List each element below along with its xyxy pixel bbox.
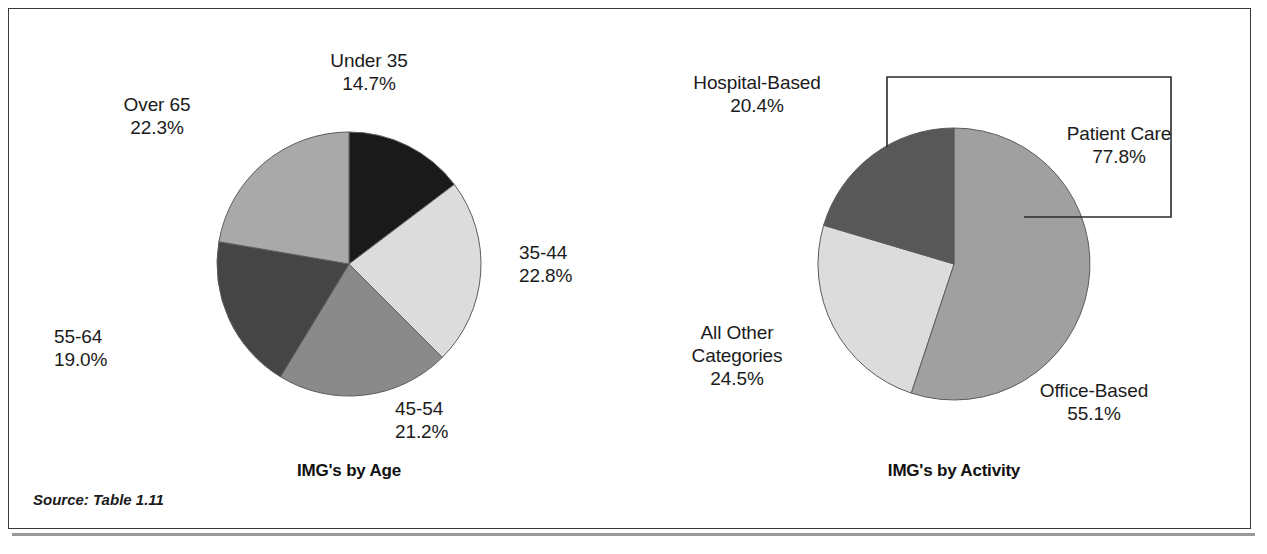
source-note: Source: Table 1.11 [33,491,164,508]
pie-label-text: Office-Based [1040,380,1148,401]
pie-label-45-54: 45-5421.2% [395,397,448,443]
pie-label-percent: 22.8% [519,264,572,287]
charts-canvas [9,9,1250,528]
pie-label-percent: 77.8% [1009,145,1229,168]
pie-label-text: 55-64 [54,326,102,347]
figure-shadow [12,533,1255,536]
pie-label-text: 35-44 [519,242,567,263]
pie-label-35-44: 35-4422.8% [519,241,572,287]
pie-label-percent: 19.0% [54,348,107,371]
pie-label-percent: 55.1% [984,402,1204,425]
pie-label-patient-care: Patient Care77.8% [1009,122,1229,168]
pie-label-percent: 24.5% [627,367,847,390]
pie-label-over-65: Over 6522.3% [47,93,267,139]
chart-title-img-by-activity: IMG's by Activity [794,461,1114,481]
pie-label-office-based: Office-Based55.1% [984,379,1204,425]
pie-img-by-age [217,132,481,396]
pie-label-55-64: 55-6419.0% [54,325,107,371]
pie-slice-over-65[interactable] [219,132,349,264]
pie-label-text: Patient Care [1067,123,1171,144]
chart-title-img-by-age: IMG's by Age [189,461,509,481]
pie-charts-svg [9,9,1252,530]
pie-label-percent: 14.7% [259,72,479,95]
pie-label-all-other-categories: All OtherCategories24.5% [627,321,847,391]
figure-frame: Under 3514.7%35-4422.8%45-5421.2%55-6419… [8,8,1251,529]
pie-label-under-35: Under 3514.7% [259,49,479,95]
pie-img-by-activity [818,128,1090,400]
pie-label-percent: 21.2% [395,420,448,443]
pie-label-text: All OtherCategories [692,322,783,366]
pie-label-percent: 22.3% [47,116,267,139]
pie-label-percent: 20.4% [647,94,867,117]
pie-label-text: Over 65 [124,94,191,115]
pie-label-text: Hospital-Based [693,72,820,93]
pie-label-text: 45-54 [395,398,443,419]
pie-label-text: Under 35 [330,50,407,71]
pie-label-hospital-based: Hospital-Based20.4% [647,71,867,117]
